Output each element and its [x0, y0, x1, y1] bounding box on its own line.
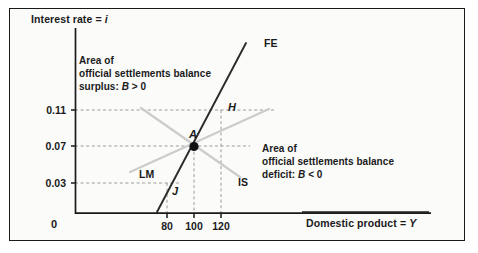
annotation-surplus-line3: surplus: B > 0 — [79, 81, 211, 94]
x-axis-title: Domestic product = Y — [306, 217, 416, 230]
curve-label-fe: FE — [264, 37, 277, 50]
annotation-deficit-symbol: B — [298, 169, 305, 180]
x-axis-title-text: Domestic product = — [306, 217, 406, 229]
figure-page: Interest rate = i Domestic product = Y 0… — [0, 0, 478, 253]
x-tick-label-120: 120 — [201, 220, 241, 233]
annotation-deficit-line3: deficit: B < 0 — [262, 169, 394, 182]
annotation-surplus-line2: official settlements balance — [79, 68, 211, 81]
point-label-j: J — [172, 184, 178, 198]
annotation-surplus-prefix: surplus: — [79, 81, 119, 92]
y-tick-label-0-11: 0.11 — [26, 104, 66, 117]
y-axis-title-symbol: i — [105, 13, 108, 25]
annotation-surplus: Area of official settlements balance sur… — [79, 55, 211, 93]
annotation-surplus-suffix: > 0 — [132, 81, 146, 92]
annotation-deficit: Area of official settlements balance def… — [262, 143, 394, 181]
y-axis-title-text: Interest rate = — [31, 13, 102, 25]
annotation-deficit-suffix: < 0 — [308, 169, 322, 180]
annotation-deficit-prefix: deficit: — [262, 169, 295, 180]
origin-label: 0 — [51, 217, 57, 231]
point-label-h: H — [228, 100, 236, 114]
curve-label-lm: LM — [139, 168, 154, 181]
y-tick-label-0-07: 0.07 — [26, 140, 66, 153]
annotation-deficit-line1: Area of — [262, 143, 394, 156]
y-tick-label-0-03: 0.03 — [26, 177, 66, 190]
curve-label-is: IS — [238, 176, 248, 189]
annotation-deficit-line2: official settlements balance — [262, 156, 394, 169]
annotation-surplus-line1: Area of — [79, 55, 211, 68]
y-axis-title: Interest rate = i — [31, 13, 108, 26]
point-label-a: A — [189, 127, 197, 141]
x-axis-title-symbol: Y — [409, 217, 416, 229]
annotation-surplus-symbol: B — [122, 81, 129, 92]
figure-frame — [9, 8, 465, 241]
